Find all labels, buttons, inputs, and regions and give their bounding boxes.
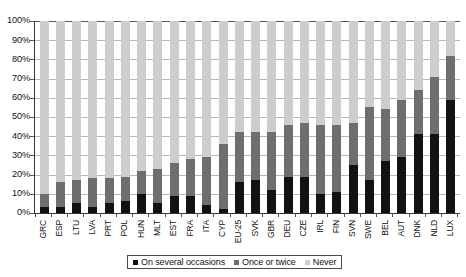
legend-swatch-icon [133, 260, 138, 265]
bar-column [85, 21, 101, 213]
x-axis-tick-label: PRT [104, 220, 113, 236]
x-axis-tick-label: FRA [185, 220, 194, 237]
bar-stack [219, 21, 228, 213]
bar-segment [267, 132, 276, 190]
bar-segment [300, 123, 309, 177]
legend-swatch-icon [234, 260, 239, 265]
bar-segment [202, 21, 211, 157]
x-axis-label-cell: PRT [100, 218, 116, 254]
legend-item: Once or twice [234, 258, 296, 267]
bar-column [394, 21, 410, 213]
plot-area [34, 21, 460, 214]
bar-segment [284, 125, 293, 177]
bar-stack [202, 21, 211, 213]
bar-segment [332, 125, 341, 192]
x-axis-label-cell: SWE [360, 218, 376, 254]
x-axis-tick-label: SVK [250, 220, 259, 237]
x-axis-tick-label: ESP [55, 220, 64, 237]
x-axis-tick-label: SWE [364, 220, 373, 239]
x-axis-label-cell: DEU [279, 218, 295, 254]
bar-stack [40, 21, 49, 213]
legend-swatch-icon [305, 260, 310, 265]
bar-stack [332, 21, 341, 213]
x-axis-label-cell: MLT [149, 218, 165, 254]
bar-segment [397, 157, 406, 213]
bar-segment [251, 180, 260, 213]
bar-stack [316, 21, 325, 213]
bar-segment [284, 177, 293, 213]
bar-column [361, 21, 377, 213]
bar-segment [219, 21, 228, 144]
bar-segment [105, 178, 114, 203]
bar-stack [414, 21, 423, 213]
x-axis-label-cell: LTU [68, 218, 84, 254]
bar-segment [170, 163, 179, 196]
bar-column [329, 21, 345, 213]
bar-stack [170, 21, 179, 213]
bar-segment [316, 21, 325, 125]
bar-segment [88, 178, 97, 207]
bar-segment [186, 21, 195, 159]
bar-segment [267, 190, 276, 213]
bar-segment [414, 134, 423, 213]
bar-segment [381, 109, 390, 161]
x-axis-label-cell: CYP [214, 218, 230, 254]
bar-column [410, 21, 426, 213]
bar-segment [202, 157, 211, 205]
y-axis-tick-label: 30% [12, 151, 30, 160]
bar-column [280, 21, 296, 213]
bar-column [378, 21, 394, 213]
x-axis-label-cell: CZE [295, 218, 311, 254]
bar-column [247, 21, 263, 213]
x-axis-label-cell: FIN [328, 218, 344, 254]
y-axis-tick-label: 100% [7, 16, 30, 25]
bar-segment [414, 21, 423, 90]
bar-segment [72, 203, 81, 213]
x-axis-tick-label: GRC [39, 220, 48, 239]
bar-segment [430, 134, 439, 213]
bar-stack [153, 21, 162, 213]
bar-segment [300, 21, 309, 123]
bar-segment [235, 21, 244, 132]
bar-segment [153, 203, 162, 213]
y-axis-tick-label: 80% [12, 55, 30, 64]
bar-stack [88, 21, 97, 213]
bar-segment [56, 182, 65, 207]
x-axis-tick-label: BEL [380, 220, 389, 236]
bar-stack [381, 21, 390, 213]
bar-segment [235, 132, 244, 182]
bar-segment [446, 56, 455, 100]
bar-column [215, 21, 231, 213]
bar-segment [397, 21, 406, 100]
bar-segment [121, 177, 130, 202]
bar-segment [251, 132, 260, 180]
bar-stack [430, 21, 439, 213]
x-axis-labels: GRCESPLTULVAPRTPOLHUNMLTESTFRAITACYPEU-2… [34, 218, 459, 254]
bar-column [52, 21, 68, 213]
y-axis-tick-label: 0% [17, 208, 30, 217]
stacked-bar-chart: 0%10%20%30%40%50%60%70%80%90%100% GRCESP… [0, 0, 466, 277]
bar-segment [170, 196, 179, 213]
bar-segment [316, 194, 325, 213]
bar-segment [365, 21, 374, 107]
bar-stack [72, 21, 81, 213]
bar-segment [105, 21, 114, 178]
bar-segment [40, 194, 49, 207]
x-axis-label-cell: AUT [393, 218, 409, 254]
x-axis-tick-label: EU-25 [234, 220, 243, 243]
x-axis-tick-label: LTU [71, 220, 80, 235]
bar-segment [137, 171, 146, 194]
bar-column [36, 21, 52, 213]
bar-stack [186, 21, 195, 213]
bar-segment [430, 77, 439, 135]
bar-segment [365, 180, 374, 213]
x-axis-tick-label: LUX [445, 220, 454, 236]
bar-segment [251, 21, 260, 132]
y-axis-tick-label: 70% [12, 74, 30, 83]
legend-label: Once or twice [242, 258, 296, 267]
x-axis-label-cell: ESP [51, 218, 67, 254]
bar-stack [235, 21, 244, 213]
x-axis-tick-label: NLD [429, 220, 438, 237]
x-axis-label-cell: EST [165, 218, 181, 254]
x-axis-label-cell: FRA [181, 218, 197, 254]
